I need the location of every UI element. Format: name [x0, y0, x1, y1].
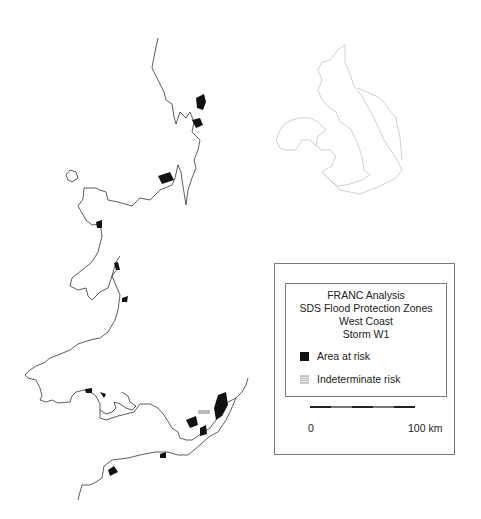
legend-title-line: Storm W1: [286, 328, 446, 341]
legend-item-indeterminate-risk: Indeterminate risk: [300, 373, 400, 385]
legend-panel: FRANC Analysis SDS Flood Protection Zone…: [274, 263, 455, 455]
legend-title-line: West Coast: [286, 315, 446, 328]
legend-title: FRANC Analysis SDS Flood Protection Zone…: [286, 289, 446, 341]
area-at-risk-zones: [85, 94, 228, 476]
legend-title-line: SDS Flood Protection Zones: [286, 302, 446, 315]
legend-title-line: FRANC Analysis: [286, 289, 446, 302]
scale-end-label: 100 km: [408, 422, 442, 434]
british-isles-inset: [276, 45, 402, 194]
stipple-swatch-icon: [300, 375, 309, 384]
solid-swatch-icon: [300, 352, 309, 361]
scale-start-label: 0: [308, 422, 314, 434]
west-coast-outline: [25, 38, 248, 500]
legend-label: Indeterminate risk: [317, 373, 400, 385]
indeterminate-risk-zones: [198, 410, 210, 414]
legend-item-area-at-risk: Area at risk: [300, 350, 370, 362]
legend-label: Area at risk: [317, 350, 370, 362]
scale-bar: [310, 406, 415, 409]
legend-key-box: FRANC Analysis SDS Flood Protection Zone…: [285, 283, 447, 397]
